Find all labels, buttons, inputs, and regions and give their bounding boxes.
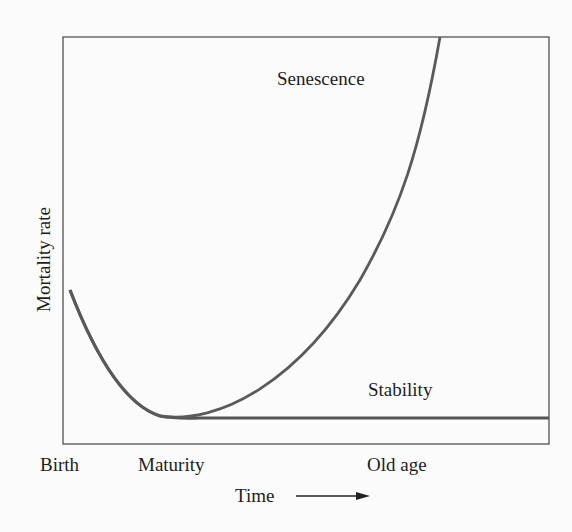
x-tick-maturity: Maturity	[138, 455, 205, 474]
y-axis-label: Mortality rate	[34, 207, 53, 312]
plot-frame	[63, 37, 549, 444]
x-tick-birth: Birth	[40, 455, 79, 474]
senescence-label: Senescence	[277, 69, 365, 88]
x-axis-label: Time	[235, 486, 274, 505]
x-tick-old-age: Old age	[367, 455, 427, 474]
arrow-right-icon	[356, 492, 370, 500]
senescence-curve	[70, 37, 440, 417]
stability-curve	[70, 290, 549, 418]
stability-label: Stability	[368, 380, 432, 399]
